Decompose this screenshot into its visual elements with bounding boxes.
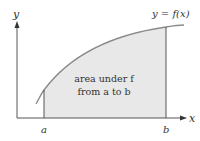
region-label-line2: from a to b <box>77 86 130 97</box>
area-under-curve-diagram: y x y = f(x) area under f from a to b a … <box>0 0 200 141</box>
region-label-line1: area under f <box>74 73 135 84</box>
curve-label: y = f(x) <box>151 8 190 19</box>
y-axis-label: y <box>12 8 20 21</box>
point-b-label: b <box>163 124 169 135</box>
point-a-label: a <box>41 124 47 135</box>
x-axis-label: x <box>189 112 196 125</box>
x-axis-arrow-icon <box>180 116 187 121</box>
y-axis-arrow-icon <box>15 21 20 28</box>
